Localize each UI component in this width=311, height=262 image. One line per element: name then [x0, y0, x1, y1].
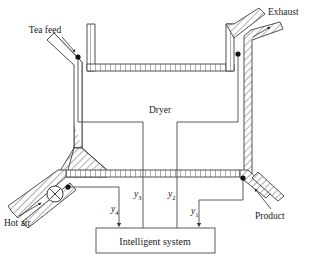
fan-blower-icon — [47, 186, 63, 202]
product-sensor-dot — [240, 175, 245, 180]
signal-y1-sub: 1 — [195, 211, 198, 218]
label-exhaust: Exhaust — [268, 7, 299, 17]
product-duct — [240, 170, 284, 201]
label-product: Product — [255, 211, 285, 221]
signal-path-y1 — [199, 178, 243, 225]
hot-air-sensor-dot — [65, 184, 70, 189]
tea-feed-duct — [47, 33, 82, 148]
signal-path-y3 — [78, 57, 143, 228]
signal-y2-sub: 2 — [172, 194, 175, 201]
exhaust-duct-inner — [244, 22, 283, 178]
tea-feed-sensor-dot — [75, 54, 80, 59]
label-dryer: Dryer — [149, 105, 172, 115]
dryer-bottom-horizontal-wall — [66, 170, 240, 177]
label-tea-feed: Tea feed — [29, 25, 62, 35]
signal-label-y2: y2 — [167, 189, 175, 201]
diagram-canvas: Tea feed Exhaust Dryer Hot air Product I… — [0, 0, 311, 262]
signal-label-y1: y1 — [190, 206, 198, 218]
label-hot-air: Hot air — [4, 218, 31, 228]
label-intelligent-system: Intelligent system — [119, 236, 191, 247]
exhaust-sensor-dot — [235, 51, 240, 56]
signal-path-y2 — [177, 54, 238, 228]
signal-y3-sub: 3 — [138, 194, 141, 201]
dryer-top-horizontal-wall — [87, 64, 234, 71]
signal-label-y3: y3 — [133, 189, 141, 201]
tea-dryer-diagram: Tea feed Exhaust Dryer Hot air Product I… — [0, 0, 311, 262]
signal-label-y4: y4 — [110, 204, 119, 216]
